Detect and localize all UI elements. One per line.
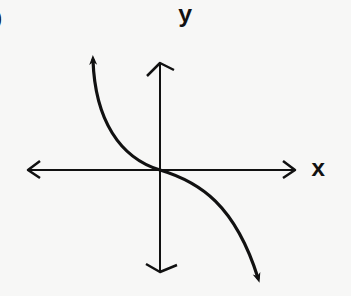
x-axis-label: x: [311, 158, 325, 182]
y-axis-label: y: [178, 4, 192, 28]
y-axis-down-arrow-icon: [146, 264, 177, 272]
graph-diagram: [0, 0, 351, 296]
